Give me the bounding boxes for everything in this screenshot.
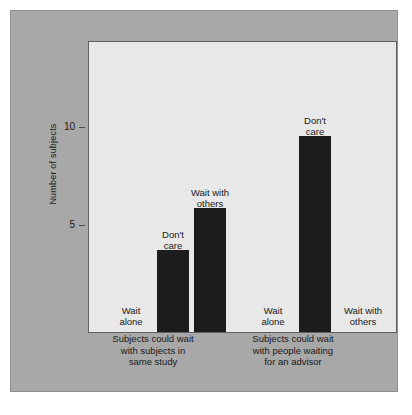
y-tick-mark-5 <box>79 225 85 226</box>
bar-label-group2-dont-care: Don't care <box>285 115 345 137</box>
bar-label-group1-wait-with-others: Wait with others <box>177 187 243 209</box>
y-tick-label-5: 5 <box>53 219 75 230</box>
bar-label-group2-wait-with-others: Wait with others <box>332 305 394 327</box>
bar-label-group2-wait-alone: Wait alone <box>247 305 299 327</box>
y-tick-label-10: 10 <box>53 121 75 132</box>
group-caption-1: Subjects could wait with subjects in sam… <box>89 333 217 368</box>
bar-label-group1-dont-care: Don't care <box>143 229 203 251</box>
y-tick-mark-10 <box>79 127 85 128</box>
figure-panel: Number of subjects 10 5 Don't care Wait … <box>10 10 398 392</box>
bar-group2-dont-care <box>299 136 331 332</box>
y-axis-label: Number of subjects <box>48 94 58 234</box>
bar-group1-wait-with-others <box>194 208 226 332</box>
chart-screenshot: Number of subjects 10 5 Don't care Wait … <box>0 0 412 415</box>
bar-group1-dont-care <box>157 250 189 332</box>
group-caption-2: Subjects could wait with people waiting … <box>227 333 359 368</box>
plot-area: Don't care Wait with others Don't care W… <box>88 41 397 333</box>
bar-label-group1-wait-alone: Wait alone <box>105 305 157 327</box>
